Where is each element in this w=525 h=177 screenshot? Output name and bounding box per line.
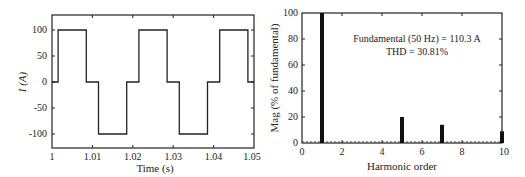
x-tick-label: 1.05: [243, 151, 261, 162]
fundamental-annotation: Fundamental (50 Hz) = 110.3 A: [353, 33, 481, 45]
y-tick-label: 100: [32, 24, 47, 35]
x-tick-label: 6: [420, 146, 425, 157]
x-ticks: [92, 15, 213, 148]
x-tick-label: 10: [499, 146, 509, 157]
x-tick-label: 0: [300, 146, 305, 157]
y-tick-label: 0: [42, 76, 47, 87]
plot-frame: [52, 15, 254, 148]
y-tick-label: 50: [37, 50, 47, 61]
waveform-plot-svg: 100 50 0 -50 -100 1 1.01 1.02 1.03 1.04 …: [0, 0, 262, 177]
y-tick-label: 80: [288, 33, 298, 44]
y-tick-label: 60: [288, 59, 298, 70]
y-tick-label: 40: [288, 85, 298, 96]
x-tick-label: 1: [50, 151, 55, 162]
harmonic-spectrum-chart: Fundamental (50 Hz) = 110.3 A THD = 30.8…: [262, 0, 525, 177]
y-tick-label: -50: [34, 102, 47, 113]
x-tick-label: 4: [380, 146, 385, 157]
harmonic-bar: [400, 117, 404, 143]
x-tick-label: 8: [460, 146, 465, 157]
thd-annotation: THD = 30.81%: [386, 46, 448, 57]
x-tick-label: 1.03: [164, 151, 182, 162]
x-axis-label: Time (s): [136, 162, 174, 175]
spectrum-plot-svg: Fundamental (50 Hz) = 110.3 A THD = 30.8…: [262, 0, 525, 177]
x-tick-label: 1.02: [124, 151, 142, 162]
y-tick-label: 20: [288, 111, 298, 122]
x-axis-label: Harmonic order: [367, 160, 437, 172]
y-ticks: [52, 30, 254, 134]
y-tick-label: 100: [283, 7, 298, 18]
y-axis-label: I (A): [16, 71, 29, 93]
x-tick-label: 1.01: [84, 151, 102, 162]
harmonic-bar: [440, 125, 444, 143]
current-waveform-chart: 100 50 0 -50 -100 1 1.01 1.02 1.03 1.04 …: [0, 0, 262, 177]
y-axis-label: Mag (% of fundamental): [268, 23, 281, 132]
y-tick-label: 0: [293, 137, 298, 148]
current-waveform-line: [52, 30, 254, 134]
x-tick-label: 2: [340, 146, 345, 157]
harmonic-bar: [500, 131, 504, 143]
y-tick-label: -100: [29, 128, 47, 139]
harmonic-bar: [320, 13, 324, 143]
x-tick-label: 1.04: [205, 151, 223, 162]
